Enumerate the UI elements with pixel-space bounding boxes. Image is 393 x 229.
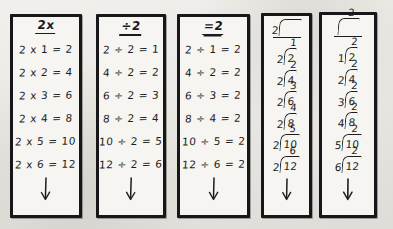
long-division-list-quotient-two: 1 2 2 2 2 4 3 2 6 — [322, 45, 374, 173]
equation-list-equals-two: 2 ÷ 1 = 2 4 ÷ 2 = 2 6 ÷ 3 = 2 8 ÷ 4 = 2 … — [180, 37, 247, 175]
long-division-header-glyph: 2 — [336, 18, 359, 35]
column-header-long-division-divisor-two: 2 — [264, 19, 309, 36]
column-long-division-quotient-two[interactable]: 2 1 2 2 2 2 4 — [319, 12, 377, 218]
equation-list-times-two: 2 x 1 = 2 2 x 2 = 4 2 x 3 = 6 2 x 4 = 8 … — [13, 37, 79, 175]
down-arrow-icon — [123, 177, 139, 207]
equation-row: 4 ÷ 2 = 2 — [102, 65, 159, 78]
equation-list-divide-by-two: 2 ÷ 2 = 1 4 ÷ 2 = 2 6 ÷ 2 = 3 8 ÷ 2 = 4 … — [99, 37, 163, 175]
equation-row: 2 x 1 = 2 — [19, 42, 74, 55]
equation-row: 8 ÷ 4 = 2 — [185, 111, 242, 124]
equation-row: 8 ÷ 2 = 4 — [102, 111, 159, 124]
equation-row: 2 x 3 = 6 — [19, 88, 74, 101]
column-equals-two[interactable]: =2 2 ÷ 1 = 2 4 ÷ 2 = 2 6 ÷ 3 = 2 8 ÷ 4 =… — [177, 14, 250, 218]
column-header-equals-two: =2 — [179, 19, 248, 35]
column-long-division-divisor-two[interactable]: 2 2 1 2 2 — [261, 13, 312, 218]
equation-row: 6 ÷ 2 = 3 — [102, 88, 159, 101]
division-bracket-icon: 6 12 — [280, 156, 300, 173]
equation-row: 2 ÷ 1 = 2 — [185, 42, 242, 55]
column-header-divide-by-two: ÷2 — [98, 19, 164, 36]
equation-row: 6 ÷ 3 = 2 — [185, 88, 242, 101]
column-divide-by-two[interactable]: ÷2 2 ÷ 2 = 1 4 ÷ 2 = 2 6 ÷ 2 = 3 8 ÷ 2 =… — [96, 14, 166, 218]
long-division-row: 2 6 12 — [273, 156, 301, 173]
equation-row: 2 ÷ 2 = 1 — [102, 42, 159, 55]
division-bracket-icon: 2 — [337, 18, 360, 35]
worksheet-columns: 2x 2 x 1 = 2 2 x 2 = 4 2 x 3 = 6 2 x 4 =… — [0, 0, 393, 229]
division-bracket-icon: 2 12 — [341, 156, 361, 173]
equation-row: 2 x 6 = 12 — [15, 157, 77, 170]
long-division-row: 6 2 12 — [334, 156, 362, 173]
long-division-list-divisor-two: 2 1 2 2 2 4 2 3 6 — [264, 46, 309, 173]
equation-row: 2 x 5 = 10 — [15, 134, 77, 147]
column-times-two[interactable]: 2x 2 x 1 = 2 2 x 2 = 4 2 x 3 = 6 2 x 4 =… — [10, 14, 82, 218]
down-arrow-icon — [38, 177, 54, 207]
equation-row: 10 ÷ 5 = 2 — [181, 134, 246, 147]
down-arrow-icon — [279, 177, 295, 207]
equation-row: 12 ÷ 2 = 6 — [99, 157, 164, 170]
equation-row: 12 ÷ 6 = 2 — [181, 157, 246, 170]
down-arrow-icon — [206, 177, 222, 207]
column-header-times-two: 2x — [12, 18, 80, 34]
equation-row: 10 ÷ 2 = 5 — [99, 134, 164, 147]
equation-row: 2 x 2 = 4 — [19, 65, 74, 78]
long-division-header-glyph: 2 — [271, 19, 301, 36]
division-bracket-icon — [279, 19, 302, 36]
down-arrow-icon — [340, 177, 356, 207]
equation-row: 2 x 4 = 8 — [19, 111, 74, 124]
equation-row: 4 ÷ 2 = 2 — [185, 65, 242, 78]
column-header-long-division-quotient-two: 2 — [322, 18, 374, 35]
